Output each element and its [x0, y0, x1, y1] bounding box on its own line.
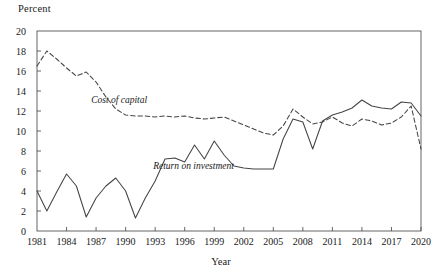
series-line-return-on-investment — [37, 100, 421, 218]
series-annotation: Cost of capital — [91, 95, 147, 105]
plot-area — [0, 0, 442, 277]
series-annotation: Return on investment — [153, 161, 234, 171]
chart-container: Percent Year 02468101214161820 198119841… — [0, 0, 442, 277]
